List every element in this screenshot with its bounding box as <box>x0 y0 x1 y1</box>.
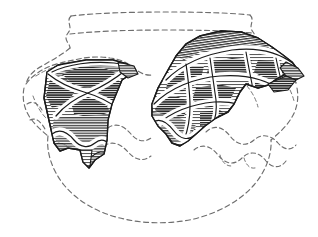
pottery-reconstruction-figure: left sherd right sherd globular jar with… <box>0 0 318 237</box>
vessel-drawing: left sherd right sherd globular jar with… <box>0 0 318 237</box>
vessel-name: globular jar with everted rim <box>2 194 199 211</box>
